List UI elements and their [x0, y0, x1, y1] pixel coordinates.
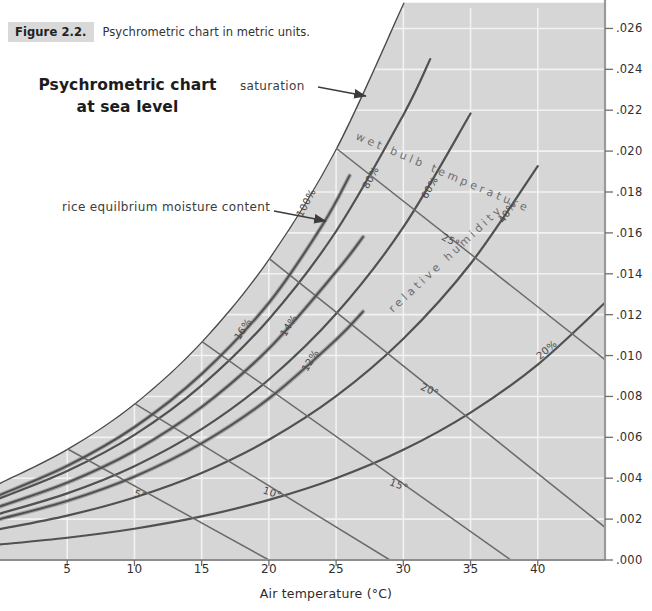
y-tick-label: .000 — [616, 553, 642, 567]
y-tick-label: .002 — [616, 512, 642, 526]
y-tick-label: .012 — [616, 308, 642, 322]
y-tick-label: .008 — [616, 389, 642, 403]
y-tick-label: .004 — [616, 471, 642, 485]
y-tick-label: .016 — [616, 226, 642, 240]
x-tick-label: 35 — [463, 562, 479, 576]
x-tick-label: 25 — [328, 562, 344, 576]
x-tick-label: 20 — [261, 562, 277, 576]
rice-emc-annotation: rice equilbrium moisture content — [62, 200, 270, 214]
x-tick-label: 5 — [63, 562, 71, 576]
y-tick-label: .022 — [616, 103, 642, 117]
x-axis-title: Air temperature (°C) — [0, 586, 652, 601]
saturation-annotation: saturation — [240, 79, 305, 93]
saturation-arrow — [318, 87, 366, 96]
x-tick-label: 40 — [530, 562, 546, 576]
y-tick-label: .018 — [616, 185, 642, 199]
x-tick-label: 30 — [395, 562, 411, 576]
y-tick-label: .014 — [616, 267, 642, 281]
y-tick-label: .024 — [616, 62, 642, 76]
y-tick-label: .026 — [616, 21, 642, 35]
y-tick-label: .010 — [616, 349, 642, 363]
y-tick-label: .006 — [616, 430, 642, 444]
x-tick-label: 10 — [127, 562, 143, 576]
x-tick-label: 15 — [194, 562, 210, 576]
y-tick-label: .020 — [616, 144, 642, 158]
psychrometric-chart-figure: Figure 2.2. Psychrometric chart in metri… — [0, 0, 652, 611]
chart-plot-area: 100%80%60%40%20%5°10°15°20°25°16%14%12% … — [0, 0, 652, 611]
